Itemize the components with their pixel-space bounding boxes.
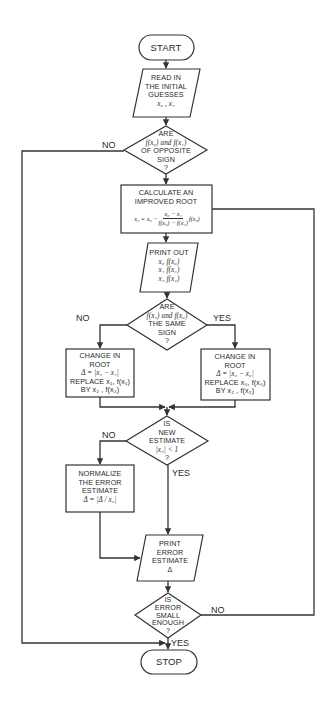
start-label: START xyxy=(151,42,182,53)
decision-error-small-label: IS ERROR SMALL ENOUGH ? xyxy=(152,596,184,635)
decision-opposite-sign-label: ARE f(x₀) and f(x₁) OF OPPOSITE SIGN ? xyxy=(141,130,191,173)
edge-label-d1-no: NO xyxy=(102,140,116,150)
read-input-label: READ IN THE INITIAL GUESSES x₀ , x₁ xyxy=(145,74,187,108)
decision-new-estimate-label: IS NEW ESTIMATE |x₂| < 1 ? xyxy=(149,420,185,463)
print-error-label: PRINT ERROR ESTIMATE Δ xyxy=(152,540,188,574)
edge-label-d4-no: NO xyxy=(211,605,225,615)
edge-label-d2-no: NO xyxy=(76,313,90,323)
edge-label-d2-yes: YES xyxy=(213,313,231,323)
edge-label-d4-yes: YES xyxy=(171,638,189,648)
change-root-left-label: CHANGE IN ROOT Δ = |x₂ − x₁| REPLACE x₁,… xyxy=(70,352,130,395)
decision-same-sign-label: ARE f(x₂) and f(x₀) THE SAME SIGN ? xyxy=(147,303,188,346)
secant-formula: x₂ = x₀ − x₀ − x₁ f(x₀) − f(x₁) f(x₀) xyxy=(122,210,212,227)
stop-label: STOP xyxy=(156,656,182,667)
normalize-error-label: NORMALIZE THE ERROR ESTIMATE Δ = |Δ / x₂… xyxy=(78,470,121,504)
print-out-label: PRINT OUT x₀ f(x₀) x₁ f(x₁) x₂ f(x₂) xyxy=(149,249,189,283)
edge-label-d3-yes: YES xyxy=(172,468,190,478)
change-root-right-label: CHANGE IN ROOT Δ = |x₂ − x₀| REPLACE x₀,… xyxy=(204,353,265,396)
calculate-root-label: CALCULATE AN IMPROVED ROOT xyxy=(135,189,197,206)
edge-label-d3-no: NO xyxy=(102,430,116,440)
